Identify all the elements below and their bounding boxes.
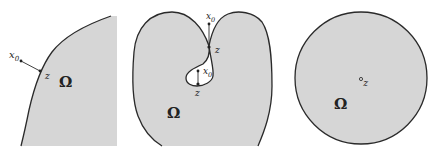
label-z-middle-neck: z — [214, 45, 220, 55]
point-z-middle-neck — [207, 45, 210, 48]
point-z-left — [39, 70, 42, 73]
point-x0-left — [20, 60, 23, 63]
point-z-middle-hole — [196, 82, 199, 85]
omega-label-left: Ω — [59, 73, 72, 91]
label-z-left: z — [44, 71, 50, 81]
label-z-right: z — [363, 79, 369, 89]
left-panel: x0 z Ω — [9, 16, 117, 146]
omega-label-middle: Ω — [167, 104, 180, 122]
middle-panel: x0 z x0 z Ω — [133, 11, 272, 146]
right-panel: z Ω — [295, 12, 427, 144]
distance-segment-left — [21, 61, 40, 71]
label-x0-middle-top: x0 — [206, 11, 215, 24]
point-x0-middle-hole — [197, 70, 200, 73]
label-z-middle-hole: z — [194, 88, 200, 98]
label-x0-middle-hole: x0 — [203, 66, 212, 79]
point-x0-middle-top — [208, 23, 211, 26]
omega-label-right: Ω — [334, 95, 347, 113]
domain-disk-right — [295, 12, 427, 144]
label-x0-left: x0 — [9, 49, 20, 63]
